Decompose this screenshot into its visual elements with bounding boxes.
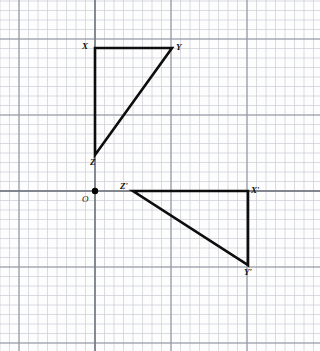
triangle-xyz xyxy=(95,48,172,155)
origin-point-dot xyxy=(92,188,98,194)
vertex-label-x-prime: X' xyxy=(251,186,259,195)
triangle-x-prime-y-prime-z-prime xyxy=(133,191,248,265)
vertex-label-y: Y xyxy=(176,43,181,52)
vertex-label-z: Z xyxy=(90,158,95,167)
geometry-figure: XYZZ'X'Y'O xyxy=(0,0,320,351)
origin-label: O xyxy=(82,195,89,204)
vertex-label-x: X xyxy=(82,42,88,51)
triangles-layer xyxy=(0,0,320,351)
vertex-label-z-prime: Z' xyxy=(120,182,128,191)
vertex-label-y-prime: Y' xyxy=(244,268,252,277)
